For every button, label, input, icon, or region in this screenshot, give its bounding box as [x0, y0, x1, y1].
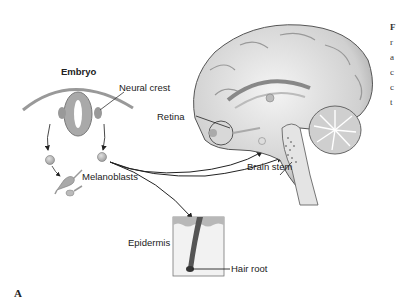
caption-line: t: [390, 95, 398, 110]
epidermis-illustration: [173, 217, 230, 276]
caption-line: F: [390, 20, 398, 35]
label-retina: Retina: [157, 112, 184, 122]
caption-line: r: [390, 35, 398, 50]
label-hair-root: Hair root: [231, 264, 267, 274]
figure: Embryo Neural crest Retina Melanoblasts …: [0, 0, 398, 305]
caption-line: a: [390, 50, 398, 65]
caption-line: c: [390, 80, 398, 95]
label-melanoblasts: Melanoblasts: [82, 172, 138, 182]
label-embryo: Embryo: [61, 67, 96, 77]
caption-line: c: [390, 65, 398, 80]
label-neural-crest: Neural crest: [119, 83, 170, 93]
diagram-artwork: [0, 0, 398, 305]
panel-label: A: [14, 287, 22, 299]
brain-illustration: [194, 25, 373, 205]
label-brain-stem: Brain stem: [247, 162, 292, 172]
label-epidermis: Epidermis: [128, 238, 170, 248]
caption-fragment: F r a c c t: [390, 20, 398, 110]
